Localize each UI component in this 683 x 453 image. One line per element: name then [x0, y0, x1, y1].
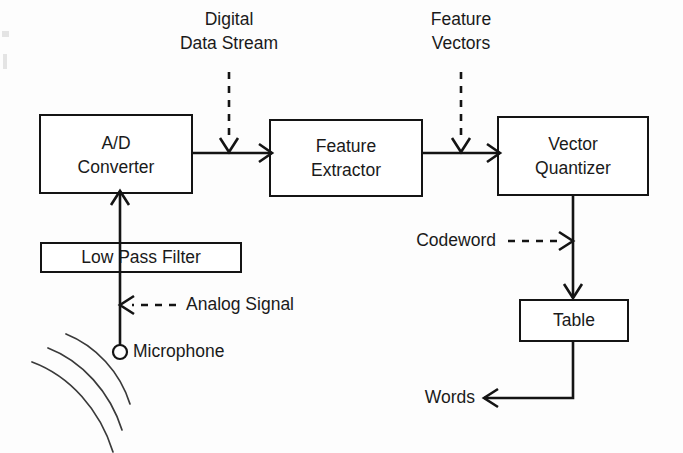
node-low-pass-filter[interactable]: Low Pass Filter: [41, 243, 241, 272]
ad-converter-label-line1: A/D: [101, 133, 130, 153]
block-diagram: A/D Converter Feature Extractor Vector Q…: [0, 0, 683, 453]
feature-vectors-label-line2: Vectors: [432, 33, 491, 53]
connector-table-to-words: [484, 341, 573, 407]
annotation-digital-data-stream: Digital Data Stream: [180, 9, 278, 152]
annotation-microphone: Microphone: [113, 341, 224, 361]
node-feature-extractor[interactable]: Feature Extractor: [270, 120, 422, 196]
table-label: Table: [553, 310, 595, 330]
feature-extractor-label-line1: Feature: [316, 136, 376, 156]
feature-vectors-label-line1: Feature: [431, 9, 491, 29]
node-table[interactable]: Table: [520, 300, 628, 341]
vector-quantizer-label-line2: Quantizer: [535, 158, 611, 178]
ad-converter-rect: [40, 115, 192, 193]
diagram-canvas: A/D Converter Feature Extractor Vector Q…: [0, 0, 683, 453]
annotation-analog-signal: Analog Signal: [120, 294, 294, 314]
node-ad-converter[interactable]: A/D Converter: [40, 115, 192, 193]
low-pass-filter-label: Low Pass Filter: [81, 247, 201, 267]
digital-data-stream-label-line2: Data Stream: [180, 33, 278, 53]
feature-extractor-label-line2: Extractor: [311, 160, 381, 180]
analog-signal-label: Analog Signal: [186, 294, 294, 314]
codeword-label: Codeword: [416, 230, 496, 250]
annotation-words: Words: [425, 387, 475, 407]
feature-extractor-rect: [270, 120, 422, 196]
vector-quantizer-label-line1: Vector: [548, 134, 598, 154]
annotation-codeword: Codeword: [416, 230, 573, 250]
node-vector-quantizer[interactable]: Vector Quantizer: [498, 117, 648, 195]
digital-data-stream-label-line1: Digital: [205, 9, 254, 29]
annotation-feature-vectors: Feature Vectors: [431, 9, 491, 152]
ad-converter-label-line2: Converter: [78, 157, 155, 177]
microphone-label: Microphone: [133, 341, 224, 361]
vector-quantizer-rect: [498, 117, 648, 195]
words-label: Words: [425, 387, 475, 407]
connector-filter-to-ad: [111, 191, 129, 243]
microphone-icon: [113, 345, 127, 359]
